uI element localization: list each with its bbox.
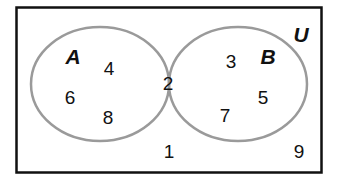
element-2: 2: [163, 74, 174, 93]
element-1: 1: [164, 142, 175, 161]
universe-label: U: [293, 24, 308, 45]
venn-diagram: A B U 4 6 8 2 3 5 7 1 9: [0, 0, 340, 185]
element-5: 5: [258, 88, 269, 107]
element-8: 8: [103, 108, 114, 127]
set-a-label: A: [65, 46, 80, 67]
element-4: 4: [104, 59, 115, 78]
element-9: 9: [294, 142, 305, 161]
set-b-label: B: [260, 46, 275, 67]
element-3: 3: [226, 52, 237, 71]
element-6: 6: [65, 88, 76, 107]
element-7: 7: [220, 106, 231, 125]
